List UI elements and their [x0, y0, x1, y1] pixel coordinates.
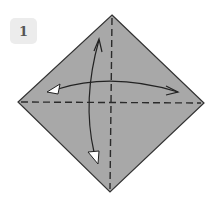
origami-diagram: [0, 0, 219, 199]
